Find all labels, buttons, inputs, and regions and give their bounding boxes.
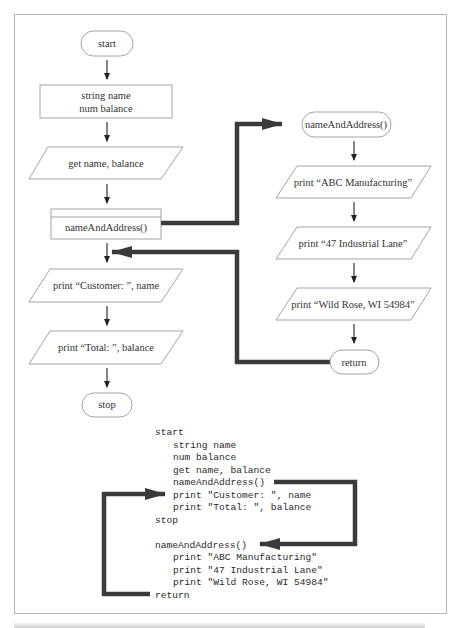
module-call-box: nameAndAddress() bbox=[51, 209, 161, 239]
print-city-parallelogram: print “Wild Rose, WI 54984” bbox=[276, 288, 431, 320]
code-line: print "Total: ", balance bbox=[173, 502, 311, 513]
print-total-parallelogram: print “Total: ”, balance bbox=[29, 331, 183, 364]
start-label: start bbox=[98, 38, 116, 49]
code-line: get name, balance bbox=[173, 465, 271, 476]
print-total-label: print “Total: ”, balance bbox=[58, 342, 154, 353]
caption-text-fragment bbox=[14, 622, 425, 628]
declarations-box: string name num balance bbox=[40, 85, 172, 118]
return-terminal: return bbox=[330, 350, 379, 374]
code-line: stop bbox=[155, 515, 178, 526]
call-arrow bbox=[161, 124, 282, 223]
print-company-label: print “ABC Manufacturing” bbox=[294, 177, 413, 188]
print-street-parallelogram: print “47 Industrial Lane” bbox=[276, 227, 431, 259]
code-line: print "ABC Manufacturing" bbox=[173, 552, 317, 563]
module-call-label: nameAndAddress() bbox=[65, 222, 148, 234]
stop-label: stop bbox=[98, 399, 116, 410]
pseudocode-block: start string name num balance get name, … bbox=[155, 427, 328, 601]
print-street-label: print “47 Industrial Lane” bbox=[299, 238, 408, 249]
code-line: num balance bbox=[173, 452, 237, 463]
declaration-line: string name bbox=[81, 90, 131, 101]
print-city-label: print “Wild Rose, WI 54984” bbox=[291, 299, 415, 310]
code-line: return bbox=[155, 590, 190, 601]
stop-terminal: stop bbox=[82, 393, 132, 417]
code-line: start bbox=[155, 427, 184, 438]
module-flowchart: nameAndAddress() print “ABC Manufacturin… bbox=[276, 112, 431, 374]
code-line: print "47 Industrial Lane" bbox=[173, 565, 323, 576]
code-line: nameAndAddress() bbox=[155, 540, 247, 551]
input-label: get name, balance bbox=[68, 158, 144, 169]
code-line: print "Customer: ", name bbox=[173, 490, 311, 501]
module-header-label: nameAndAddress() bbox=[305, 119, 388, 131]
print-company-parallelogram: print “ABC Manufacturing” bbox=[276, 166, 431, 198]
code-line: string name bbox=[173, 440, 237, 451]
declaration-line: num balance bbox=[79, 103, 133, 114]
print-customer-parallelogram: print “Customer: ”, name bbox=[29, 269, 183, 302]
flowchart-diagram: start string name num balance get name, … bbox=[0, 0, 457, 628]
code-line: nameAndAddress() bbox=[173, 477, 265, 488]
figure-caption-cropped bbox=[14, 622, 447, 628]
input-parallelogram: get name, balance bbox=[29, 147, 183, 179]
start-terminal: start bbox=[81, 31, 133, 56]
return-label: return bbox=[341, 357, 367, 368]
code-line: print "Wild Rose, WI 54984" bbox=[173, 577, 328, 588]
module-header-terminal: nameAndAddress() bbox=[302, 112, 391, 137]
main-flowchart: start string name num balance get name, … bbox=[29, 31, 183, 417]
print-customer-label: print “Customer: ”, name bbox=[53, 280, 159, 291]
